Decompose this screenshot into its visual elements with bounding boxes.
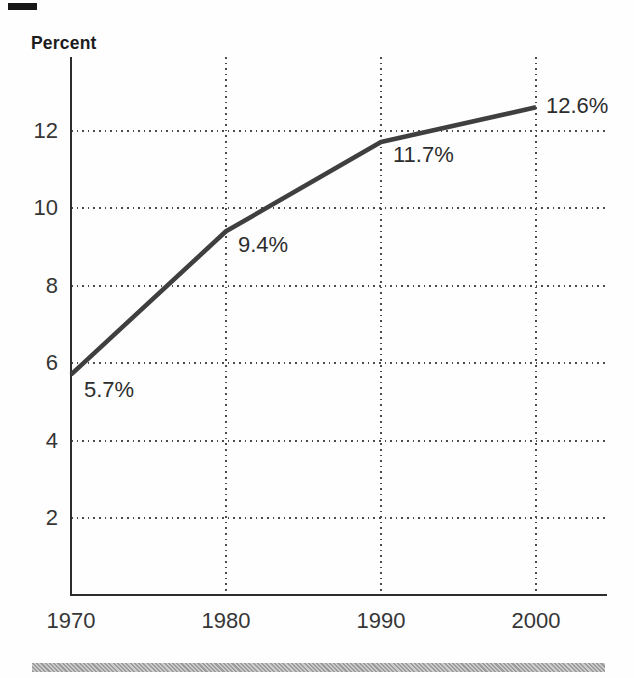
series-line bbox=[71, 107, 536, 374]
data-label-1990: 11.7% bbox=[393, 143, 454, 167]
series-layer bbox=[0, 0, 634, 678]
data-label-2000: 12.6% bbox=[546, 94, 608, 118]
data-label-1970: 5.7% bbox=[84, 378, 134, 402]
bottom-rule bbox=[32, 663, 605, 672]
data-label-1980: 9.4% bbox=[238, 233, 288, 257]
chart: Percent 246810121970198019902000 5.7% 9.… bbox=[0, 0, 634, 678]
